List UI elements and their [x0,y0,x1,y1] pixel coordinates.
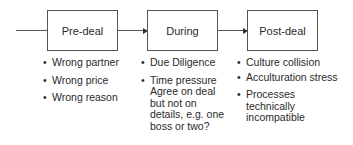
stage-label: Pre-deal [62,25,104,37]
bullet-item: Wrong partner [43,57,138,69]
bullet-item: Wrong reason [43,92,138,104]
bullet-item: Processes technically incompatible [237,89,312,124]
stage-box-pre-deal: Pre-deal [47,10,118,51]
stage-box-during: During [147,10,218,51]
bullet-item: Culture collision [237,57,347,69]
stage-label: During [166,25,198,37]
post-deal-bullets: Culture collision Acculturation stress P… [237,57,347,130]
lead-in-line [16,30,47,31]
stage-label: Post-deal [259,25,305,37]
bullet-item: Due Diligence [141,57,227,69]
bullet-item: Wrong price [43,75,138,87]
arrow-icon [217,30,247,31]
stage-box-post-deal: Post-deal [247,10,318,51]
bullet-item: Acculturation stress [237,72,347,84]
during-bullets: Due Diligence Time pressure Agree on dea… [141,57,227,138]
bullet-item: Time pressure Agree on deal but not on d… [141,75,227,133]
arrow-icon [117,30,147,31]
pre-deal-bullets: Wrong partner Wrong price Wrong reason [43,57,138,110]
